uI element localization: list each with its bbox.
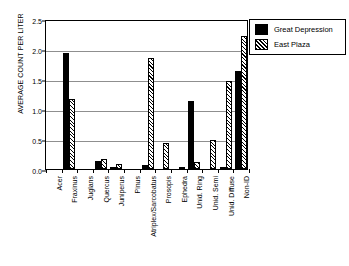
x-axis-ticks	[46, 21, 247, 169]
x-tick-label: Atriplex/Sarcobatus	[150, 176, 157, 237]
x-tick-label: Non-ID	[243, 176, 250, 198]
bar-chart: AVERAGE COUNT PER LITER 0.00.51.01.52.02…	[0, 0, 349, 266]
x-tick-mark	[187, 169, 188, 173]
x-tick-mark	[46, 169, 47, 173]
x-tick-label: Acer	[56, 176, 63, 190]
legend-swatch-hatch-icon	[255, 39, 268, 50]
x-tick-label: Unid. Semi	[212, 176, 219, 210]
x-tick-mark	[62, 169, 63, 173]
legend-label: East Plaza	[274, 40, 310, 49]
plot-area: 0.00.51.01.52.02.5	[45, 20, 248, 170]
x-tick-label: Ephedra	[181, 176, 188, 202]
x-tick-mark	[218, 169, 219, 173]
x-tick-label: Juglans	[87, 176, 94, 200]
x-tick-mark	[77, 169, 78, 173]
y-tick-label: 2.0	[32, 48, 46, 55]
x-tick-label: Juniperus	[118, 176, 125, 206]
chart-legend: Great Depression East Plaza	[249, 19, 346, 55]
x-tick-mark	[171, 169, 172, 173]
x-tick-mark	[233, 169, 234, 173]
x-tick-mark	[155, 169, 156, 173]
legend-label: Great Depression	[274, 25, 333, 34]
x-tick-label: Quercus	[103, 176, 110, 202]
x-tick-mark	[124, 169, 125, 173]
x-tick-label: Pinus	[134, 176, 141, 194]
x-tick-label: Unid. Ring	[196, 176, 203, 209]
y-tick-label: 0.0	[32, 168, 46, 175]
x-tick-label: Unid. Diffuse	[228, 176, 235, 216]
legend-swatch-solid-icon	[255, 24, 268, 35]
x-tick-mark	[93, 169, 94, 173]
x-tick-mark	[108, 169, 109, 173]
x-tick-label: Fraxinus	[71, 176, 78, 203]
y-tick-label: 1.5	[32, 78, 46, 85]
x-tick-mark	[249, 169, 250, 173]
x-tick-mark	[140, 169, 141, 173]
y-tick-label: 1.0	[32, 108, 46, 115]
legend-item-east-plaza: East Plaza	[255, 39, 340, 50]
legend-item-great-depression: Great Depression	[255, 24, 340, 35]
y-tick-label: 0.5	[32, 138, 46, 145]
x-tick-mark	[202, 169, 203, 173]
y-tick-label: 2.5	[32, 18, 46, 25]
x-tick-label: Prosopis	[165, 176, 172, 203]
y-axis-title: AVERAGE COUNT PER LITER	[17, 0, 24, 129]
